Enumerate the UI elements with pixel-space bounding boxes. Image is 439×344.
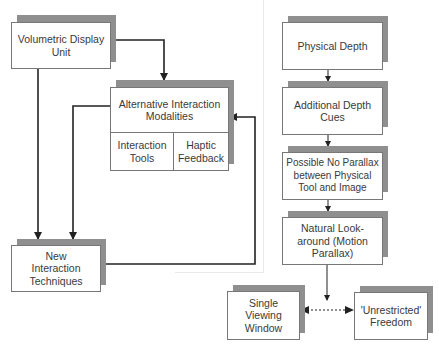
physical-depth-label: Physical Depth	[297, 40, 367, 53]
unrestricted-freedom-box: 'Unrestricted' Freedom	[354, 292, 428, 340]
new-techniques-label: New Interaction Techniques	[22, 250, 90, 288]
edge-modalities-to-techniques	[73, 106, 110, 239]
unrestricted-freedom-label: 'Unrestricted' Freedom	[359, 304, 423, 329]
edge-volumetric-to-modalities	[110, 40, 164, 80]
no-parallax-label: Possible No Parallax between Physical To…	[285, 157, 380, 195]
haptic-feedback-label: Haptic Feedback	[174, 139, 228, 164]
single-viewing-window-box: Single Viewing Window	[227, 291, 300, 340]
alternative-modalities-header: Alternative Interaction Modalities	[110, 87, 229, 133]
look-around-label: Natural Look-around (Motion Parallax)	[295, 222, 370, 260]
volumetric-display-label: Volumetric Display Unit	[15, 33, 107, 58]
panel-divider-horizontal	[175, 272, 264, 273]
single-viewing-window-label: Single Viewing Window	[240, 297, 287, 335]
new-techniques-box: New Interaction Techniques	[11, 245, 101, 292]
haptic-feedback-cell: Haptic Feedback	[173, 132, 229, 171]
interaction-tools-cell: Interaction Tools	[110, 132, 174, 171]
no-parallax-box: Possible No Parallax between Physical To…	[282, 152, 383, 200]
panel-divider-vertical	[263, 0, 264, 273]
additional-depth-cues-label: Additional Depth Cues	[291, 99, 374, 124]
volumetric-display-box: Volumetric Display Unit	[11, 22, 111, 69]
interaction-tools-label: Interaction Tools	[111, 139, 173, 164]
physical-depth-box: Physical Depth	[282, 22, 383, 70]
alternative-modalities-label: Alternative Interaction Modalities	[115, 98, 224, 123]
look-around-box: Natural Look-around (Motion Parallax)	[282, 217, 383, 265]
additional-depth-cues-box: Additional Depth Cues	[282, 87, 383, 135]
